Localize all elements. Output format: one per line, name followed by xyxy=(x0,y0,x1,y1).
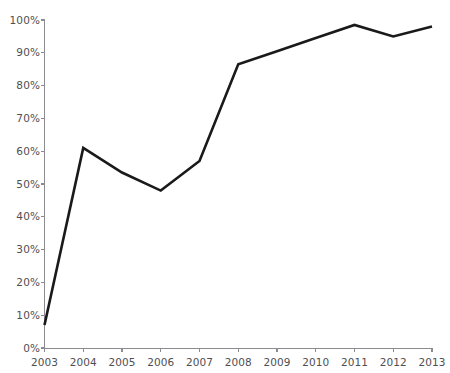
x-axis-tick-label: 2013 xyxy=(410,357,450,368)
y-axis-tick-label: 0% xyxy=(0,343,40,354)
x-axis-tick-label: 2008 xyxy=(216,357,260,368)
y-axis-tick-label: 60% xyxy=(0,146,40,157)
x-axis-tick-label: 2012 xyxy=(371,357,415,368)
y-axis-tick-label: 20% xyxy=(0,277,40,288)
x-axis xyxy=(45,348,433,352)
y-axis-tick-label: 80% xyxy=(0,80,40,91)
y-axis-tick-label: 50% xyxy=(0,179,40,190)
x-axis-tick-label: 2006 xyxy=(139,357,183,368)
y-axis-tick-label: 100% xyxy=(0,15,40,26)
y-axis-ticks xyxy=(41,20,45,348)
x-axis-tick-label: 2004 xyxy=(61,357,105,368)
y-axis-tick-label: 10% xyxy=(0,310,40,321)
x-axis-tick-label: 2003 xyxy=(23,357,67,368)
x-axis-tick-label: 2005 xyxy=(100,357,144,368)
x-axis-tick-label: 2007 xyxy=(178,357,222,368)
data-series-line xyxy=(45,25,433,325)
y-axis-tick-label: 30% xyxy=(0,244,40,255)
y-axis-tick-label: 40% xyxy=(0,211,40,222)
y-axis xyxy=(41,20,45,348)
y-axis-tick-label: 70% xyxy=(0,113,40,124)
x-axis-tick-label: 2011 xyxy=(333,357,377,368)
x-axis-tick-label: 2009 xyxy=(255,357,299,368)
x-axis-tick-label: 2010 xyxy=(294,357,338,368)
y-axis-tick-label: 90% xyxy=(0,47,40,58)
